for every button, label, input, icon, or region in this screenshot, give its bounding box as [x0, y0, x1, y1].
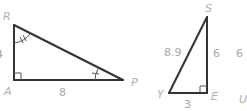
right-angle-mark-e	[200, 86, 207, 93]
right-angle-mark-a	[14, 73, 21, 80]
vertex-label-e: E	[211, 90, 218, 103]
vertex-label-y: Y	[157, 88, 165, 101]
side-label-ye: 3	[184, 98, 191, 111]
vertex-label-r: R	[3, 10, 11, 23]
side-label-se: 6	[213, 47, 220, 60]
angle-tick-p	[92, 73, 99, 74]
side-label-ap: 8	[59, 86, 66, 99]
triangle-sye: S Y E 8.9 6 3	[157, 2, 220, 111]
partial-number-label: 6	[236, 47, 243, 60]
angle-arc-p	[95, 69, 98, 80]
vertex-label-a: A	[3, 85, 12, 98]
side-label-ys: 8.9	[164, 46, 182, 59]
vertex-label-p: P	[131, 76, 138, 89]
side-label-ra: 4	[0, 48, 3, 61]
triangle-diagram: R A P 4 8 S Y E 8.9 6 3 6 U	[0, 0, 247, 111]
triangle-rap: R A P 4 8	[0, 10, 138, 99]
vertex-label-s: S	[205, 2, 212, 15]
partial-vertex-label-u: U	[239, 93, 247, 106]
